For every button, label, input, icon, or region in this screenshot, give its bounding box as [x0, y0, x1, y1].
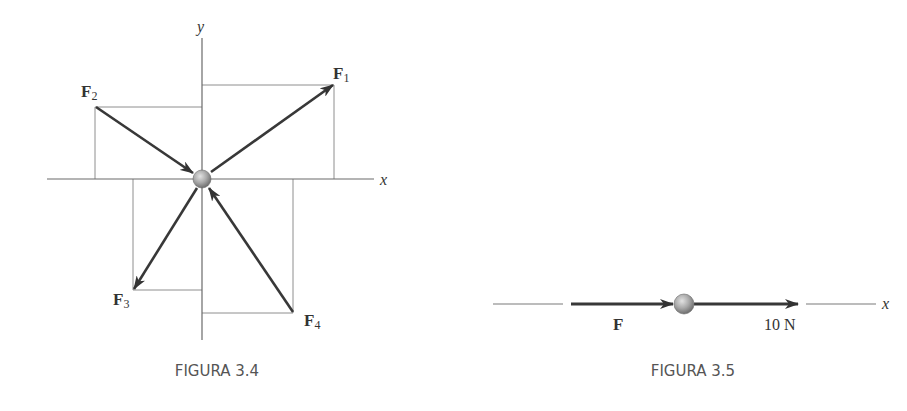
f1-label: F1 — [333, 64, 349, 85]
x-axis-label: x — [379, 171, 387, 188]
figure-3-4: x y F1 F2 F3 F4 FIGURA 3.4 — [47, 18, 387, 380]
figure-canvas: x y F1 F2 F3 F4 FIGURA 3.4 x F 10 N FIGU… — [0, 0, 907, 411]
figure-3-5-caption: FIGURA 3.5 — [651, 362, 735, 380]
figure-3-4-caption: FIGURA 3.4 — [175, 362, 259, 380]
y-axis-label: y — [195, 18, 205, 36]
f4-label: F4 — [304, 311, 320, 332]
f3-label: F3 — [113, 290, 129, 311]
force-arrow-f2 — [96, 107, 193, 173]
particle — [674, 294, 694, 314]
force-arrow-f3 — [134, 188, 197, 289]
force-10n-label: 10 N — [764, 316, 796, 333]
f2-label: F2 — [81, 82, 97, 103]
force-arrow-f4 — [209, 188, 293, 312]
figure-3-5: x F 10 N FIGURA 3.5 — [493, 294, 889, 380]
x-axis-label: x — [881, 295, 889, 312]
force-arrow-f1 — [211, 85, 333, 172]
force-f-label: F — [613, 315, 623, 334]
particle — [193, 170, 211, 188]
component-guides — [95, 85, 334, 313]
